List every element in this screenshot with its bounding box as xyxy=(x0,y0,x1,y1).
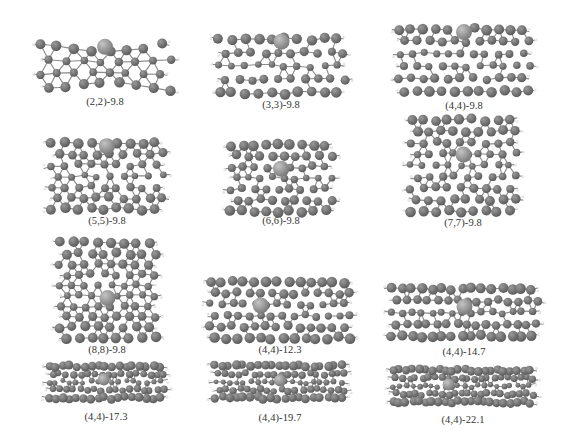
panel-label: (4,4)-19.7 xyxy=(259,412,302,423)
dopant-atom xyxy=(99,290,115,306)
dopant-atom xyxy=(97,373,109,385)
panel-6-6-9-8 xyxy=(221,140,341,216)
panel-label: (7,7)-9.8 xyxy=(444,217,482,228)
panel-2-2-9-8 xyxy=(30,38,180,96)
dopant-atom xyxy=(273,34,289,50)
dopant-atom xyxy=(273,161,289,177)
panel-label: (6,6)-9.8 xyxy=(262,215,300,226)
molecule-image xyxy=(50,238,165,343)
panel-8-8-9-8 xyxy=(50,238,165,343)
panel-label: (4,4)-14.7 xyxy=(443,346,486,357)
panel-4-4-19-7 xyxy=(205,361,355,403)
panel-5-5-9-8 xyxy=(42,138,172,214)
molecule-image xyxy=(389,24,539,96)
panel-label: (4,4)-17.3 xyxy=(85,411,128,422)
panel-label: (3,3)-9.8 xyxy=(262,99,300,110)
molecule-image xyxy=(401,115,526,216)
panel-label: (2,2)-9.8 xyxy=(86,96,124,107)
panel-label: (5,5)-9.8 xyxy=(88,215,126,226)
panel-4-4-22-1 xyxy=(383,365,543,407)
molecule-image xyxy=(382,284,547,341)
panel-7-7-9-8 xyxy=(401,115,526,216)
dopant-atom xyxy=(99,138,115,154)
dopant-atom xyxy=(455,147,471,163)
panel-label: (8,8)-9.8 xyxy=(88,344,126,355)
panel-4-4-17-3 xyxy=(39,361,174,403)
molecule-image xyxy=(205,361,355,403)
panel-4-4-14-7 xyxy=(382,284,547,341)
molecule-image xyxy=(42,138,172,214)
molecule-image xyxy=(30,38,180,96)
panel-3-3-9-8 xyxy=(209,34,354,98)
dopant-atom xyxy=(443,378,455,390)
molecule-image xyxy=(200,277,360,343)
molecule-image xyxy=(39,361,174,403)
panel-4-4-12-3 xyxy=(200,277,360,343)
dopant-atom xyxy=(456,24,472,40)
panel-label: (4,4)-9.8 xyxy=(445,100,483,111)
panel-4-4-9-8 xyxy=(389,24,539,96)
dopant-atom xyxy=(253,298,269,314)
molecule-image xyxy=(209,34,354,98)
dopant-atom xyxy=(456,299,472,315)
dopant-atom xyxy=(274,374,286,386)
dopant-atom xyxy=(97,39,113,55)
molecule-image xyxy=(221,140,341,216)
molecule-image xyxy=(383,365,543,407)
panel-label: (4,4)-22.1 xyxy=(442,414,485,425)
panel-label: (4,4)-12.3 xyxy=(259,344,302,355)
